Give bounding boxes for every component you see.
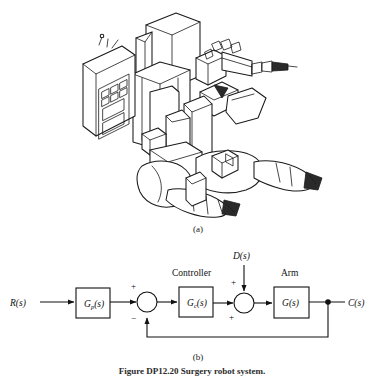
summing-junction-1 bbox=[137, 292, 157, 312]
control-block-diagram: R(s) Gp(s) + − Controller Gc(s) bbox=[0, 245, 384, 355]
disturbance-signal-label: D(s) bbox=[232, 251, 250, 262]
sum1-plus-sign: + bbox=[131, 281, 136, 291]
figure-caption: Figure DP12.20 Surgery robot system. bbox=[0, 366, 384, 376]
block-g-label: G(s) bbox=[282, 298, 299, 309]
panel-b-label: (b) bbox=[178, 352, 218, 362]
input-signal-label: R(s) bbox=[9, 298, 26, 309]
figure-page: (a) R(s) Gp(s) + − bbox=[0, 0, 384, 378]
controller-title: Controller bbox=[172, 268, 212, 278]
panel-a-label: (a) bbox=[178, 224, 218, 234]
block-gc-label: Gc(s) bbox=[187, 298, 207, 310]
output-signal-label: C(s) bbox=[348, 298, 364, 309]
block-gp-label: Gp(s) bbox=[84, 299, 104, 311]
summing-junction-2 bbox=[234, 293, 254, 313]
block-diagram-svg: R(s) Gp(s) + − Controller Gc(s) bbox=[0, 245, 384, 355]
sum1-minus-sign: − bbox=[131, 313, 136, 323]
arm-title: Arm bbox=[281, 268, 299, 278]
sum2-plus-bottom-sign: + bbox=[229, 312, 234, 322]
robot-line-drawing-svg bbox=[0, 0, 384, 220]
sum2-plus-top-sign: + bbox=[231, 277, 236, 287]
robot-illustration bbox=[0, 0, 384, 220]
